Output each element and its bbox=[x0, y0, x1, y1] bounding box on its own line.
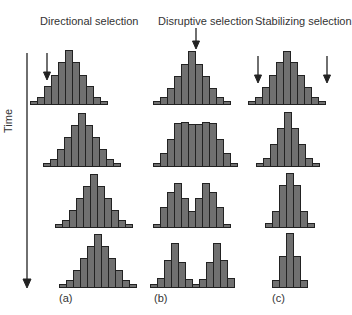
histogram-stabilizing-row-4 bbox=[272, 233, 307, 287]
histogram-baseline bbox=[30, 104, 108, 105]
histogram-directional-row-2 bbox=[43, 113, 120, 166]
histogram-baseline bbox=[59, 287, 137, 288]
histogram-baseline bbox=[43, 166, 121, 167]
histogram-baseline bbox=[153, 104, 231, 105]
histogram-baseline bbox=[153, 227, 231, 228]
histogram-baseline bbox=[248, 104, 326, 105]
histogram-disruptive-row-1 bbox=[153, 51, 230, 104]
histogram-directional-row-3 bbox=[55, 174, 132, 227]
histogram-baseline bbox=[153, 166, 238, 167]
histogram-baseline bbox=[272, 287, 308, 288]
histogram-disruptive-row-4 bbox=[150, 243, 234, 287]
histogram-directional-row-4 bbox=[59, 234, 136, 287]
histogram-bar bbox=[300, 280, 308, 287]
histogram-directional-row-1 bbox=[30, 50, 107, 104]
histogram-baseline bbox=[265, 227, 315, 228]
histogram-stabilizing-row-3 bbox=[265, 173, 314, 227]
histogram-baseline bbox=[256, 166, 320, 167]
histogram-stabilizing-row-1 bbox=[248, 51, 325, 104]
histogram-disruptive-row-3 bbox=[153, 183, 230, 227]
histogram-bar bbox=[227, 278, 235, 287]
histogram-baseline bbox=[150, 287, 235, 288]
selection-arrow-disruptive-icon bbox=[193, 28, 200, 49]
histogram-disruptive-row-2 bbox=[153, 122, 237, 166]
histogram-baseline bbox=[55, 227, 133, 228]
histogram-stabilizing-row-2 bbox=[256, 112, 319, 166]
